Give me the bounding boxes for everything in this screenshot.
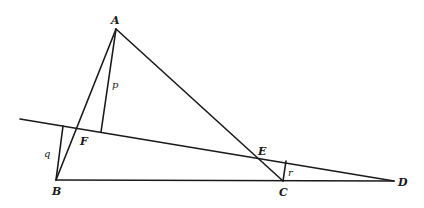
label-A: A [110, 14, 120, 27]
label-D: D [397, 176, 408, 189]
label-q: q [44, 148, 50, 159]
label-C: C [279, 186, 288, 199]
segment-BD [56, 180, 394, 181]
segment-AB [56, 29, 116, 180]
geometry-diagram: A B C D E F p q r [0, 0, 424, 208]
label-r: r [288, 167, 294, 178]
label-B: B [51, 185, 61, 198]
perpendicular-r [283, 161, 286, 181]
label-p: p [112, 79, 119, 90]
label-F: F [79, 135, 89, 148]
diagram-canvas: A B C D E F p q r [0, 0, 424, 208]
label-E: E [257, 145, 267, 158]
transversal-line [20, 119, 394, 181]
